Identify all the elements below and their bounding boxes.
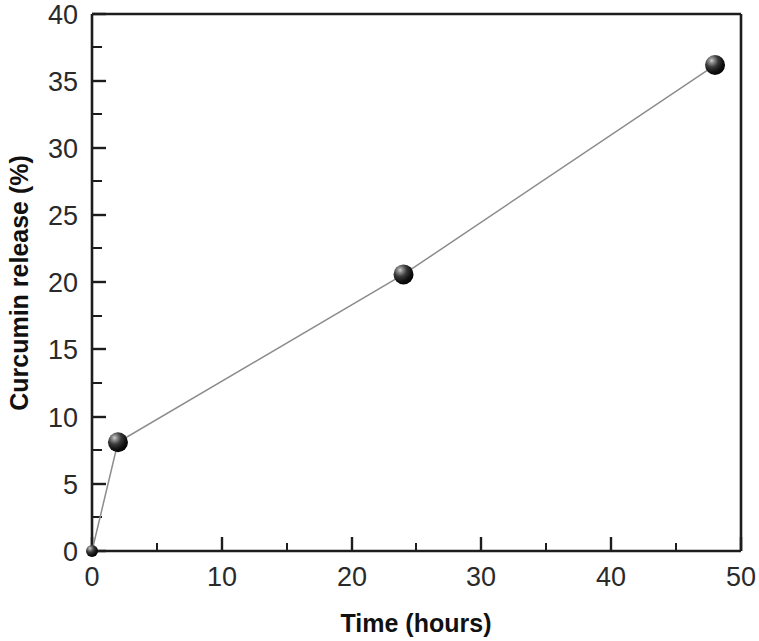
y-tick-label-25: 25 bbox=[48, 201, 78, 231]
data-point-24h[interactable] bbox=[394, 264, 414, 284]
curcumin-release-line-chart: 0 10 20 30 40 50 0 5 10 15 20 25 30 35 4… bbox=[0, 0, 759, 641]
chart-figure: 0 10 20 30 40 50 0 5 10 15 20 25 30 35 4… bbox=[0, 0, 759, 641]
y-tick-label-0: 0 bbox=[63, 537, 78, 567]
y-tick-label-35: 35 bbox=[48, 67, 78, 97]
y-tick-label-30: 30 bbox=[48, 134, 78, 164]
x-tick-label-40: 40 bbox=[596, 562, 626, 592]
data-point-2h[interactable] bbox=[108, 432, 128, 452]
x-tick-label-30: 30 bbox=[466, 562, 496, 592]
x-tick-label-20: 20 bbox=[337, 562, 367, 592]
y-tick-label-10: 10 bbox=[48, 403, 78, 433]
x-axis-title: Time (hours) bbox=[341, 609, 492, 637]
y-tick-label-5: 5 bbox=[63, 470, 78, 500]
x-tick-label-50: 50 bbox=[726, 562, 756, 592]
x-tick-label-10: 10 bbox=[207, 562, 237, 592]
y-tick-label-40: 40 bbox=[48, 0, 78, 30]
y-tick-label-15: 15 bbox=[48, 335, 78, 365]
y-tick-label-20: 20 bbox=[48, 268, 78, 298]
x-tick-label-0: 0 bbox=[84, 562, 99, 592]
y-axis-title: Curcumin release (%) bbox=[5, 155, 33, 411]
data-point-0h[interactable] bbox=[86, 545, 98, 557]
data-point-48h[interactable] bbox=[705, 55, 725, 75]
chart-background bbox=[0, 0, 759, 641]
